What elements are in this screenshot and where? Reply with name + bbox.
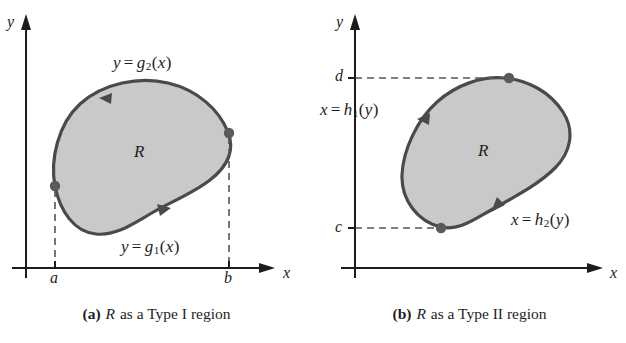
caption-b-variable: R xyxy=(416,305,426,322)
x-axis-arrowhead-a xyxy=(259,263,275,273)
curve-label-h1-close-paren: ) xyxy=(373,100,379,119)
curve-label-h2-lhs: x xyxy=(511,210,519,229)
curve-label-g1: y=g1(x) xyxy=(121,238,180,257)
figure-type-i-and-type-ii-regions: y x a b R y=g2(x) y=g1(x) (a)R as a Type… xyxy=(0,0,626,343)
curve-label-g1-lhs: y xyxy=(121,237,129,256)
curve-label-g2-operator: = xyxy=(121,53,137,72)
curve-label-g2-fn: g xyxy=(137,53,146,72)
tick-label-a: a xyxy=(50,270,58,286)
caption-a-tag: (a) xyxy=(83,305,106,322)
caption-panel-a: (a)R as a Type I region xyxy=(0,305,313,323)
caption-a-variable: R xyxy=(106,305,116,322)
curve-label-h2-operator: = xyxy=(519,210,535,229)
marker-point-top-b xyxy=(504,73,514,83)
y-axis-arrowhead-a xyxy=(21,14,31,30)
panel-b-drawing xyxy=(313,0,626,300)
curve-label-h1: x=h1(y) xyxy=(320,101,379,120)
curve-label-h1-lhs: x xyxy=(320,100,328,119)
curve-label-g2-arg: x xyxy=(158,53,166,72)
y-axis-arrowhead-b xyxy=(350,14,360,30)
curve-label-g1-close-paren: ) xyxy=(174,237,180,256)
panel-type-ii-region: y x d c R x=h1(y) x=h2(y) (b)R as a Type… xyxy=(313,0,626,343)
y-axis-label-a: y xyxy=(7,14,14,30)
curve-label-h2-arg: y xyxy=(556,210,564,229)
tick-label-d: d xyxy=(335,68,343,84)
curve-label-h1-operator: = xyxy=(328,100,344,119)
y-axis-label-b: y xyxy=(336,14,343,30)
marker-point-right-a xyxy=(224,128,234,138)
curve-label-g2-lhs: y xyxy=(113,53,121,72)
caption-b-text: as a Type II region xyxy=(431,305,547,322)
region-label-b: R xyxy=(478,142,489,159)
curve-label-h2-fn: h xyxy=(535,210,544,229)
caption-a-text: as a Type I region xyxy=(120,305,231,322)
marker-point-left-a xyxy=(50,181,60,191)
curve-label-h2-close-paren: ) xyxy=(564,210,570,229)
x-axis-arrowhead-b xyxy=(587,263,603,273)
caption-panel-b: (b)R as a Type II region xyxy=(313,305,626,323)
x-axis-label-a: x xyxy=(283,265,290,281)
marker-point-bottom-b xyxy=(436,223,446,233)
curve-label-h1-fn: h xyxy=(344,100,353,119)
tick-label-b: b xyxy=(224,270,232,286)
curve-label-g2: y=g2(x) xyxy=(113,54,172,73)
curve-label-g1-arg: x xyxy=(166,237,174,256)
curve-label-h2: x=h2(y) xyxy=(511,211,570,230)
curve-label-g1-fn: g xyxy=(145,237,154,256)
panel-type-i-region: y x a b R y=g2(x) y=g1(x) (a)R as a Type… xyxy=(0,0,313,343)
tick-label-c: c xyxy=(335,219,342,235)
curve-label-g1-operator: = xyxy=(129,237,145,256)
curve-label-h1-arg: y xyxy=(365,100,373,119)
caption-b-tag: (b) xyxy=(393,305,417,322)
region-label-a: R xyxy=(134,143,145,160)
x-axis-label-b: x xyxy=(610,265,617,281)
curve-label-g2-close-paren: ) xyxy=(166,53,172,72)
